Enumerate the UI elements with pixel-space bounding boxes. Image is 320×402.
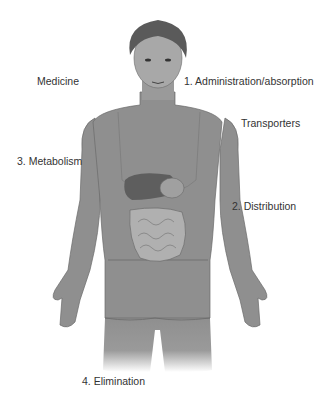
label-administration: 1. Administration/absorption — [184, 75, 314, 87]
label-distribution: 2. Distribution — [232, 200, 296, 212]
label-transporters: Transporters — [241, 117, 300, 129]
left-arm — [53, 118, 100, 327]
torso — [93, 92, 222, 318]
right-arm — [220, 118, 267, 327]
intestines — [130, 208, 186, 261]
label-medicine: Medicine — [37, 75, 79, 87]
label-elimination: 4. Elimination — [82, 375, 145, 387]
label-metabolism: 3. Metabolism — [17, 155, 82, 167]
stomach — [160, 178, 184, 198]
legs — [103, 318, 212, 372]
